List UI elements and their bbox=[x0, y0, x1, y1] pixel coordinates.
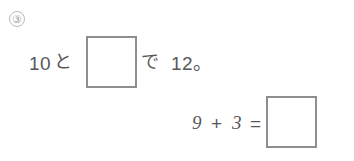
equation-right-operand: 3 bbox=[232, 113, 242, 132]
worksheet-page: ③ 10 と で 12。 9 + 3 = bbox=[0, 0, 354, 161]
statement-particle-to: と bbox=[54, 53, 73, 71]
statement-line: 10 と で 12。 bbox=[0, 36, 354, 90]
equation-plus-operator: + bbox=[211, 114, 222, 133]
equation-left-operand: 9 bbox=[192, 113, 202, 132]
statement-particle-te: で bbox=[141, 53, 160, 71]
statement-first-number: 10 bbox=[29, 54, 51, 73]
answer-blank-box-statement[interactable] bbox=[86, 36, 137, 88]
equation-equals-sign: = bbox=[250, 114, 261, 133]
answer-blank-box-equation[interactable] bbox=[266, 96, 317, 148]
problem-number-label: ③ bbox=[12, 14, 22, 25]
problem-number-badge: ③ bbox=[9, 11, 25, 27]
statement-total-number: 12。 bbox=[171, 54, 213, 73]
